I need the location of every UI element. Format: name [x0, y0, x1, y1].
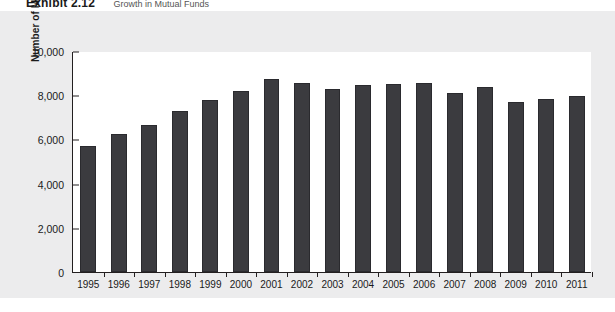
- bar: [111, 134, 127, 272]
- y-tick-label: 8,000: [3, 90, 73, 102]
- chart-panel: Number of Mutual Funds 02,0004,0006,0008…: [0, 11, 615, 298]
- x-tick-mark: [287, 272, 288, 277]
- x-tick-label: 1997: [138, 279, 160, 290]
- plot-area: Number of Mutual Funds 02,0004,0006,0008…: [72, 52, 591, 273]
- x-tick-label: 2008: [474, 279, 496, 290]
- x-tick-mark: [409, 272, 410, 277]
- x-tick-mark: [561, 272, 562, 277]
- x-tick-mark: [134, 272, 135, 277]
- x-tick-label: 2002: [291, 279, 313, 290]
- bottom-strip: [0, 298, 615, 312]
- bar: [172, 111, 188, 272]
- bar: [355, 85, 371, 272]
- x-tick-label: 2010: [535, 279, 557, 290]
- x-tick-mark: [378, 272, 379, 277]
- x-tick-label: 2001: [260, 279, 282, 290]
- bar: [386, 84, 402, 272]
- y-tick-label: 4,000: [3, 179, 73, 191]
- x-tick-mark: [470, 272, 471, 277]
- bar: [80, 146, 96, 272]
- x-tick-mark: [317, 272, 318, 277]
- x-tick-label: 2009: [505, 279, 527, 290]
- bar: [447, 93, 463, 272]
- x-tick-mark: [165, 272, 166, 277]
- bar: [416, 83, 432, 272]
- x-tick-label: 2005: [382, 279, 404, 290]
- y-tick-label: 6,000: [3, 134, 73, 146]
- bar: [508, 102, 524, 272]
- x-tick-mark: [195, 272, 196, 277]
- y-tick-label: 0: [3, 267, 73, 279]
- x-tick-mark: [439, 272, 440, 277]
- x-tick-label: 2000: [230, 279, 252, 290]
- bar: [294, 83, 310, 272]
- bar: [264, 79, 280, 272]
- x-tick-mark: [531, 272, 532, 277]
- x-tick-mark: [348, 272, 349, 277]
- x-tick-label: 2004: [352, 279, 374, 290]
- x-tick-label: 1996: [108, 279, 130, 290]
- bar: [141, 125, 157, 272]
- x-tick-label: 1999: [199, 279, 221, 290]
- bar: [325, 89, 341, 272]
- x-tick-label: 1995: [77, 279, 99, 290]
- y-tick-label: 2,000: [3, 223, 73, 235]
- exhibit-header: Exhibit 2.12 Growth in Mutual Funds: [0, 0, 615, 11]
- bar-series: [73, 52, 591, 272]
- x-tick-mark: [256, 272, 257, 277]
- x-tick-label: 2007: [443, 279, 465, 290]
- x-tick-mark: [592, 272, 593, 277]
- exhibit-title: Growth in Mutual Funds: [114, 0, 210, 9]
- bar: [569, 96, 585, 272]
- x-tick-label: 2003: [321, 279, 343, 290]
- x-tick-label: 2006: [413, 279, 435, 290]
- x-tick-mark: [104, 272, 105, 277]
- x-tick-mark: [226, 272, 227, 277]
- bar: [202, 100, 218, 272]
- y-tick-label: 10,000: [3, 46, 73, 58]
- bar: [538, 99, 554, 272]
- x-tick-mark: [500, 272, 501, 277]
- x-tick-label: 2011: [566, 279, 588, 290]
- x-tick-label: 1998: [169, 279, 191, 290]
- y-axis-title: Number of Mutual Funds: [30, 0, 41, 82]
- bar: [477, 87, 493, 272]
- bar: [233, 91, 249, 272]
